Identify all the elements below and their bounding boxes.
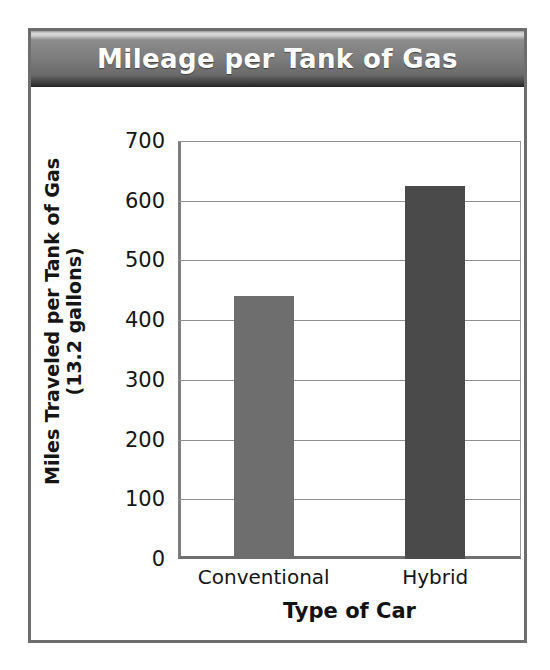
y-axis-tick-labels: 0100200300400500600700 bbox=[91, 141, 169, 559]
y-axis-title: Miles Traveled per Tank of Gas (13.2 gal… bbox=[37, 111, 89, 531]
y-tick-label: 100 bbox=[125, 487, 165, 511]
gridline bbox=[178, 380, 521, 381]
y-axis-title-line2: (13.2 gallons) bbox=[63, 247, 85, 395]
gridline bbox=[178, 201, 521, 202]
bar-hybrid[interactable] bbox=[405, 186, 465, 559]
gridline bbox=[178, 440, 521, 441]
plot-frame bbox=[178, 141, 521, 559]
y-axis-title-line1: Miles Traveled per Tank of Gas bbox=[41, 158, 63, 485]
gridline bbox=[178, 499, 521, 500]
x-tick-label: Hybrid bbox=[402, 565, 468, 589]
page-title: Mileage per Tank of Gas bbox=[97, 44, 458, 74]
chart-body: Miles Traveled per Tank of Gas (13.2 gal… bbox=[31, 87, 524, 640]
gridline bbox=[178, 141, 521, 142]
bar-conventional[interactable] bbox=[234, 296, 294, 559]
y-tick-label: 400 bbox=[125, 308, 165, 332]
y-tick-label: 200 bbox=[125, 428, 165, 452]
y-tick-label: 300 bbox=[125, 368, 165, 392]
y-tick-label: 600 bbox=[125, 189, 165, 213]
gridline bbox=[178, 320, 521, 321]
chart-figure: Mileage per Tank of Gas Miles Traveled p… bbox=[28, 28, 527, 643]
y-tick-label: 0 bbox=[152, 547, 165, 571]
gridline bbox=[178, 260, 521, 261]
y-tick-label: 500 bbox=[125, 248, 165, 272]
chart-title-banner: Mileage per Tank of Gas bbox=[31, 31, 524, 87]
x-axis-category-labels: ConventionalHybrid bbox=[178, 565, 521, 595]
plot-area bbox=[178, 141, 521, 559]
x-axis-title: Type of Car bbox=[178, 599, 521, 623]
x-tick-label: Conventional bbox=[198, 565, 330, 589]
y-tick-label: 700 bbox=[125, 129, 165, 153]
